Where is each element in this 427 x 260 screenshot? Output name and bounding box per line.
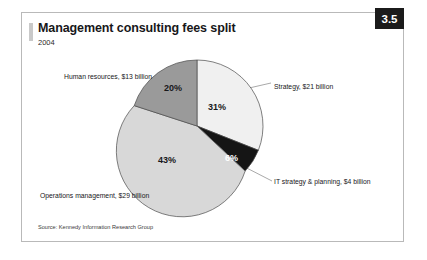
pie-callout-strategy: Strategy, $21 billion: [274, 83, 333, 90]
pie-callout-operations-management: Operations management, $29 billion: [40, 192, 149, 199]
pie-callout-it-strategy-planning: IT strategy & planning, $4 billion: [274, 178, 371, 185]
figure-panel: Management consulting fees split 2004 3.…: [21, 12, 404, 242]
pie-percent-label-it-strategy-planning: 6%: [225, 153, 238, 163]
source-note: Source: Kennedy Information Research Gro…: [38, 224, 153, 230]
pie-percent-label-human-resources: 20%: [164, 83, 182, 93]
pie-callout-human-resources: Human resources, $13 billion: [64, 73, 152, 80]
pie-chart-plot-area: 31% 6% 43% 20% Human resources, $13 bill…: [22, 13, 405, 243]
pie-chart-svg: [22, 13, 405, 243]
pie-percent-label-strategy: 31%: [208, 102, 226, 112]
pie-percent-label-operations-management: 43%: [158, 155, 176, 165]
